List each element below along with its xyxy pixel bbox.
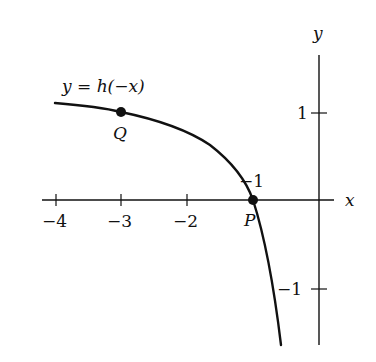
x-tick-label-minus2: −2 (173, 211, 198, 231)
curve-label: y = h(−x) (61, 76, 145, 96)
x-axis-label: x (345, 190, 355, 210)
point-p-dot (248, 195, 258, 205)
x-tick-label-minus3: −3 (107, 211, 132, 231)
y-axis-label: y (312, 23, 323, 43)
x-tick-label-minus4: −4 (42, 211, 67, 231)
point-q-dot (116, 107, 126, 117)
x-tick-label-minus1: −1 (239, 171, 264, 191)
y-tick-label-minus1: −1 (277, 279, 302, 299)
point-q-label: Q (113, 123, 127, 143)
y-tick-label-1: 1 (297, 103, 308, 123)
point-p-label: P (243, 210, 256, 230)
graph: y = h(−x) Q P x y −4 −3 −2 −1 1 −1 (0, 0, 376, 362)
